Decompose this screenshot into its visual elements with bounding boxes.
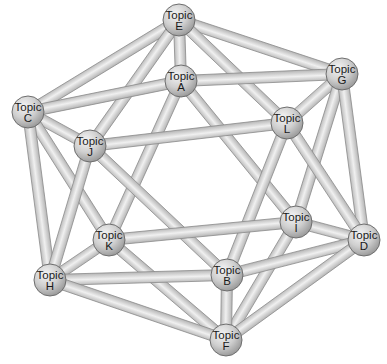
node-topic-k[interactable]: TopicK — [93, 224, 125, 256]
edge-h-f — [48, 275, 228, 345]
edge-a-g — [181, 69, 342, 87]
node-topic-b[interactable]: TopicB — [211, 259, 243, 291]
node-label-line2: E — [175, 20, 183, 32]
node-topic-d[interactable]: TopicD — [348, 224, 380, 256]
edge-j-b — [86, 142, 231, 279]
node-label-line2: K — [105, 240, 113, 252]
node-topic-a[interactable]: TopicA — [165, 65, 197, 97]
node-topic-l[interactable]: TopicL — [271, 107, 303, 139]
edge-j-l — [89, 118, 287, 152]
edge-i-k — [108, 217, 296, 246]
node-label-line2: B — [223, 275, 231, 287]
node-label-line2: G — [338, 74, 347, 86]
node-topic-h[interactable]: TopicH — [34, 264, 66, 296]
node-label-line2: I — [294, 222, 297, 234]
node-label-line2: F — [222, 340, 229, 352]
node-label-line2: H — [46, 280, 54, 292]
node-label-line2: L — [284, 123, 291, 135]
topic-network-diagram: TopicETopicATopicGTopicCTopicJTopicLTopi… — [0, 0, 387, 364]
node-label-line2: C — [24, 112, 32, 124]
node-topic-f[interactable]: TopicF — [210, 324, 242, 356]
node-topic-g[interactable]: TopicG — [326, 58, 358, 90]
node-topic-c[interactable]: TopicC — [12, 96, 44, 128]
node-label-line2: J — [87, 146, 93, 158]
node-label-line2: A — [177, 81, 185, 93]
node-label-line2: D — [360, 240, 368, 252]
edge-layer — [23, 15, 370, 345]
node-topic-e[interactable]: TopicE — [163, 4, 195, 36]
node-topic-i[interactable]: TopicI — [280, 206, 312, 238]
node-topic-j[interactable]: TopicJ — [74, 130, 106, 162]
